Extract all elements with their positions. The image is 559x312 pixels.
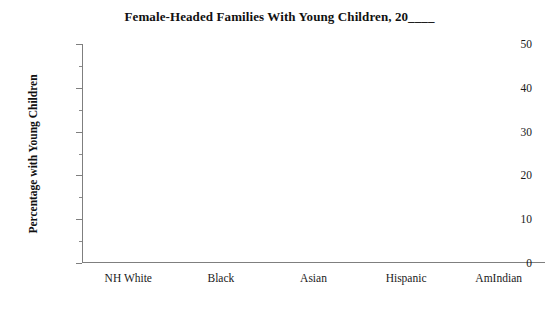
y-tick-major: [76, 132, 82, 133]
y-axis-title-container: Percentage with Young Children: [24, 44, 42, 263]
y-tick-minor: [79, 66, 82, 67]
y-tick-minor: [79, 241, 82, 242]
x-category-label: Hispanic: [386, 272, 427, 284]
x-category-label: AmIndian: [475, 272, 522, 284]
x-axis-line: [82, 262, 545, 263]
y-tick-major: [76, 88, 82, 89]
y-tick-label: 20: [521, 169, 533, 181]
plot-background: [82, 44, 545, 263]
x-category-label: Asian: [300, 272, 327, 284]
y-tick-label: 50: [521, 38, 533, 50]
y-tick-minor: [79, 197, 82, 198]
plot-area: 01020304050: [82, 44, 545, 263]
y-tick-major: [76, 219, 82, 220]
y-tick-major: [76, 175, 82, 176]
y-axis-line: [82, 44, 83, 263]
chart-figure: Female-Headed Families With Young Childr…: [0, 0, 559, 312]
y-tick-major: [76, 44, 82, 45]
y-tick-label: 30: [521, 126, 533, 138]
y-axis-title: Percentage with Young Children: [27, 74, 39, 233]
y-tick-label: 0: [526, 257, 532, 269]
y-tick-label: 40: [521, 82, 533, 94]
y-tick-major: [76, 263, 82, 264]
x-category-label: Black: [207, 272, 234, 284]
x-category-label: NH White: [105, 272, 152, 284]
y-tick-label: 10: [521, 213, 533, 225]
y-tick-minor: [79, 154, 82, 155]
chart-title: Female-Headed Families With Young Childr…: [0, 9, 559, 25]
y-tick-minor: [79, 110, 82, 111]
